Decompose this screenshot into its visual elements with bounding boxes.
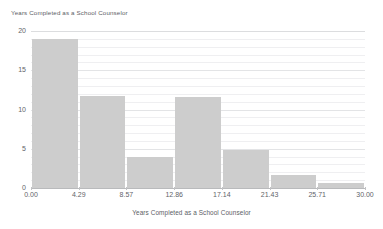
x-tick-label: 21.43 (261, 190, 279, 199)
y-tick-label: 20 (18, 27, 26, 35)
x-tick-label: 12.86 (165, 190, 183, 199)
x-tick-label: 8.57 (120, 190, 134, 199)
y-tick-label: 10 (18, 106, 26, 114)
bar (127, 157, 173, 188)
x-tick-label: 0.00 (24, 190, 38, 199)
bar (223, 150, 269, 188)
histogram-chart: Years Completed as a School Counselor 05… (0, 0, 383, 229)
x-tick-label: 17.14 (213, 190, 231, 199)
y-tick-label: 0 (22, 184, 26, 192)
bar (80, 96, 126, 188)
y-tick-label: 5 (22, 145, 26, 153)
x-axis-line (31, 188, 366, 189)
y-tick-label: 15 (18, 66, 26, 74)
bar (175, 97, 221, 188)
x-tick-label: 30.00 (356, 190, 374, 199)
bar (271, 175, 317, 188)
x-axis-title: Years Completed as a School Counselor (0, 208, 383, 217)
plot-area (31, 31, 365, 188)
bar-series (31, 31, 365, 188)
y-axis-tick-labels: 05101520 (0, 0, 31, 229)
x-tick-label: 25.71 (308, 190, 326, 199)
x-tick-label: 4.29 (72, 190, 86, 199)
chart-title: Years Completed as a School Counselor (11, 9, 128, 17)
x-axis-tick-labels: 0.004.298.5712.8617.1421.4325.7130.00 (0, 190, 383, 204)
bar (32, 39, 78, 188)
